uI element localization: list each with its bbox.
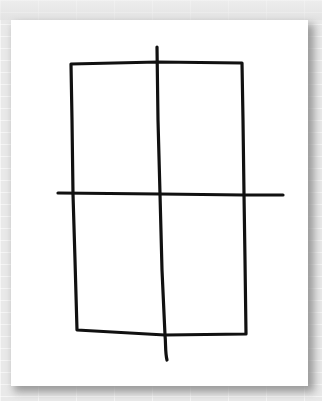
window-sketch-diagram xyxy=(0,0,322,401)
vertical-divider-line xyxy=(157,47,167,360)
horizontal-divider-line xyxy=(58,193,283,195)
